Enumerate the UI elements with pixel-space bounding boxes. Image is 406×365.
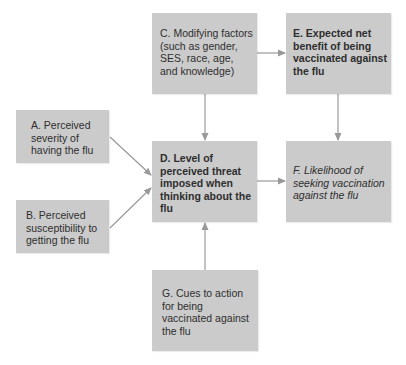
node-c-modifying-factors: C. Modifying factors (such as gender, SE… <box>152 13 257 94</box>
node-f-label: F. Likelihood of seeking vaccination aga… <box>293 164 391 202</box>
node-e-expected-net-benefit: E. Expected net benefit of being vaccina… <box>286 13 391 94</box>
node-a-label: A. Perceived severity of having the flu <box>31 119 109 157</box>
node-d-label: D. Level of perceived threat imposed whe… <box>160 152 257 215</box>
node-e-label: E. Expected net benefit of being vaccina… <box>293 27 391 77</box>
node-g-label: G. Cues to action for being vaccinated a… <box>162 287 258 337</box>
node-b-perceived-susceptibility: B. Perceived susceptibility to getting t… <box>16 200 109 253</box>
node-c-label: C. Modifying factors (such as gender, SE… <box>160 27 257 77</box>
arrow-b-to-d <box>110 188 151 228</box>
node-a-perceived-severity: A. Perceived severity of having the flu <box>16 110 109 163</box>
node-g-cues-to-action: G. Cues to action for being vaccinated a… <box>152 270 258 351</box>
health-belief-model-diagram: A. Perceived severity of having the flu … <box>0 0 406 365</box>
node-d-perceived-threat: D. Level of perceived threat imposed whe… <box>152 141 257 222</box>
node-b-label: B. Perceived susceptibility to getting t… <box>26 209 109 247</box>
arrow-a-to-d <box>110 137 151 175</box>
node-f-likelihood-of-vaccination: F. Likelihood of seeking vaccination aga… <box>286 141 391 222</box>
